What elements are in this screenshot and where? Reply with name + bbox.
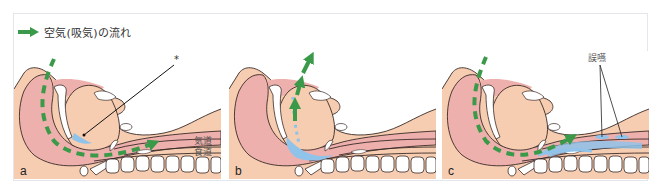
- panel-a: * 気道 食道 a: [14, 51, 221, 179]
- panel-label-c: c: [448, 164, 454, 178]
- anatomy-figure: * 気道 食道 a b: [0, 0, 662, 189]
- panel-c: 誤嚥 c: [442, 51, 649, 179]
- panel-label-b: b: [235, 164, 242, 178]
- panel-b: b: [229, 51, 436, 179]
- airway-label: 気道: [194, 135, 212, 146]
- asterisk-label: *: [174, 54, 179, 65]
- esophagus-label: 食道: [194, 146, 212, 157]
- panel-label-a: a: [20, 164, 27, 178]
- aspiration-label: 誤嚥: [588, 52, 606, 63]
